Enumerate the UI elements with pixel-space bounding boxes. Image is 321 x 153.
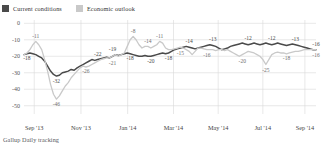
data-point-label: -13 bbox=[209, 36, 217, 42]
legend-item-0[interactable]: Current conditions bbox=[2, 5, 62, 12]
x-axis-tick-label: Nov '13 bbox=[71, 124, 91, 131]
data-point-label: -21 bbox=[109, 60, 117, 66]
x-axis-tick-label: Sep '14 bbox=[296, 124, 315, 131]
data-point-label: -14 bbox=[185, 38, 193, 44]
square-swatch-icon bbox=[2, 5, 9, 12]
y-axis-tick-label: -40 bbox=[12, 86, 20, 92]
x-axis-svg: Sep '13Nov '13Jan '14Mar '14May '14Jul '… bbox=[0, 122, 321, 134]
data-point-label: -26 bbox=[82, 68, 90, 74]
data-point-label: -16 bbox=[312, 41, 320, 47]
data-point-label: -14 bbox=[144, 38, 152, 44]
data-point-label: -16 bbox=[312, 52, 320, 58]
x-axis-tick-label: Jul '14 bbox=[255, 124, 272, 131]
x-axis-tick-label: May '14 bbox=[208, 124, 229, 131]
data-point-label: -20 bbox=[239, 58, 247, 64]
y-axis-tick-label: -10 bbox=[12, 37, 20, 43]
legend-item-1[interactable]: Economic outlook bbox=[76, 5, 135, 12]
data-point-label: -11 bbox=[156, 33, 163, 39]
x-axis: Sep '13Nov '13Jan '14Mar '14May '14Jul '… bbox=[0, 120, 321, 132]
data-point-label: -46 bbox=[53, 101, 61, 107]
data-point-label: -12 bbox=[268, 35, 276, 41]
series-line-1 bbox=[24, 36, 316, 99]
data-point-label: -8 bbox=[131, 28, 136, 34]
data-point-label: -18 bbox=[23, 55, 31, 61]
x-axis-tick-label: Jan '14 bbox=[119, 124, 137, 131]
chart-container: Current conditionsEconomic outlook 0-10-… bbox=[0, 0, 321, 153]
plot-area: 0-10-20-30-40-50-18-32-22-19-18-20-18-14… bbox=[0, 16, 321, 120]
data-point-label: -32 bbox=[53, 78, 61, 84]
y-axis-tick-label: -30 bbox=[12, 70, 20, 76]
data-point-label: -18 bbox=[283, 55, 291, 61]
x-axis-tick-label: Sep '13 bbox=[25, 124, 43, 131]
y-axis-tick-label: -20 bbox=[12, 53, 20, 59]
x-axis-tick-label: Mar '14 bbox=[164, 124, 184, 131]
data-point-label: -13 bbox=[292, 36, 300, 42]
data-point-label: -18 bbox=[165, 55, 173, 61]
square-swatch-icon bbox=[76, 5, 83, 12]
data-point-label: -20 bbox=[147, 58, 155, 64]
data-point-label: -15 bbox=[177, 50, 185, 56]
line-chart-svg: 0-10-20-30-40-50-18-32-22-19-18-20-18-14… bbox=[0, 16, 321, 120]
data-point-label: -11 bbox=[32, 33, 39, 39]
data-point-label: -18 bbox=[127, 55, 135, 61]
y-axis-tick-label: -50 bbox=[12, 103, 20, 109]
data-point-label: -16 bbox=[203, 52, 211, 58]
legend-label: Current conditions bbox=[13, 5, 62, 12]
chart-legend: Current conditionsEconomic outlook bbox=[2, 2, 149, 14]
data-point-label: -12 bbox=[244, 35, 252, 41]
data-point-label: -22 bbox=[94, 51, 102, 57]
data-point-label: -19 bbox=[109, 46, 117, 52]
y-axis-tick-label: 0 bbox=[17, 20, 20, 26]
legend-label: Economic outlook bbox=[87, 5, 135, 12]
source-note: Gallup Daily tracking bbox=[3, 136, 59, 143]
data-point-label: -25 bbox=[262, 67, 270, 73]
